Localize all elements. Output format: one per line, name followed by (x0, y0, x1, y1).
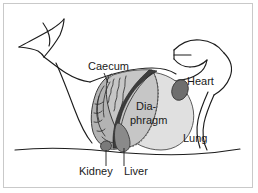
label-diaphragm-line1: Dia- (136, 100, 157, 112)
head-back-line (214, 53, 231, 95)
tail-tip-line (43, 23, 50, 46)
label-lung: Lung (183, 132, 207, 144)
tail-lower-line (19, 47, 44, 57)
anatomy-diagram: Caecum Heart Dia- phragm Lung Kidney Liv… (0, 0, 258, 193)
breast-contour (56, 63, 92, 143)
label-liver: Liver (124, 165, 148, 177)
head-crown-line (174, 40, 224, 53)
tail-upper-line (19, 19, 64, 47)
label-kidney: Kidney (79, 165, 113, 177)
label-diaphragm-line2: phragm (130, 114, 167, 126)
tail-base-line (44, 19, 64, 57)
beak-lower-line (174, 59, 190, 67)
label-heart: Heart (187, 75, 214, 87)
back-contour (44, 57, 90, 82)
head-jaw-line (190, 60, 207, 67)
anatomy-figure: Caecum Heart Dia- phragm Lung Kidney Liv… (0, 0, 258, 193)
label-caecum: Caecum (88, 60, 129, 72)
